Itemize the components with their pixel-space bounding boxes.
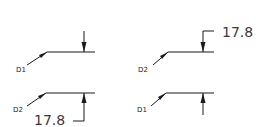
arrow-down-icon	[201, 42, 206, 52]
leader-label: D2	[138, 66, 148, 74]
leader-label: D1	[16, 66, 26, 74]
dimension-extension-line	[203, 31, 214, 52]
leader-label: D2	[13, 106, 23, 114]
dimension-value: 17.8	[34, 112, 65, 127]
dimension-extension-line	[73, 93, 84, 121]
arrow-down-icon	[82, 42, 87, 52]
panel-top-left: D1	[16, 31, 95, 74]
leader-label: D1	[137, 106, 147, 114]
dimension-value: 17.8	[222, 24, 253, 40]
arrow-up-icon	[82, 93, 87, 103]
diagram-canvas: D1 17.8 D2 17.8 D2 D1	[0, 0, 269, 127]
leader-arrowhead-icon	[39, 52, 47, 58]
panel-top-right: 17.8 D2	[138, 24, 253, 74]
panel-bottom-right: D1	[137, 93, 214, 115]
panel-bottom-left: 17.8 D2	[13, 93, 95, 127]
arrow-up-icon	[201, 93, 206, 103]
